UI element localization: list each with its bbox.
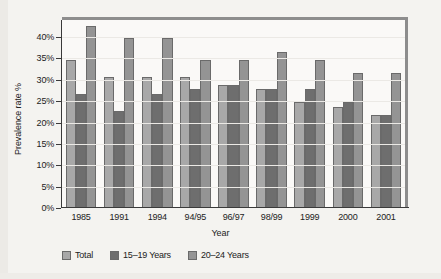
gridline — [62, 101, 405, 102]
bar[interactable] — [256, 89, 266, 208]
legend-item[interactable]: 20–24 Years — [188, 250, 249, 260]
x-axis-tick-label: 1991 — [110, 212, 129, 222]
bar[interactable] — [104, 77, 114, 208]
bar[interactable] — [343, 102, 353, 208]
bar[interactable] — [218, 85, 228, 208]
bar[interactable] — [86, 26, 96, 208]
y-axis-title: Prevalence rate % — [13, 49, 23, 189]
y-axis-line — [61, 20, 62, 208]
x-axis-tick-label: 2000 — [338, 212, 357, 222]
y-axis-tick-label: 0% — [41, 203, 54, 213]
bar[interactable] — [266, 89, 276, 208]
bar[interactable] — [228, 85, 238, 208]
bar[interactable] — [180, 77, 190, 208]
bar[interactable] — [277, 52, 287, 208]
gridline — [62, 165, 405, 166]
y-axis-tick-label: 10% — [37, 160, 54, 170]
x-axis-title: Year — [0, 228, 441, 238]
bar-group — [180, 20, 211, 208]
gridline — [62, 144, 405, 145]
legend-item[interactable]: 15–19 Years — [110, 250, 171, 260]
bar[interactable] — [76, 94, 86, 209]
legend-label: 15–19 Years — [123, 250, 171, 260]
gridline — [62, 187, 405, 188]
bar[interactable] — [142, 77, 152, 208]
bar-group — [66, 20, 97, 208]
legend-swatch-icon — [110, 251, 119, 260]
x-axis-tick-label: 2001 — [376, 212, 395, 222]
legend-swatch-icon — [188, 251, 197, 260]
bar-group — [371, 20, 402, 208]
x-axis-tick-label: 1999 — [300, 212, 319, 222]
gridline — [62, 123, 405, 124]
legend-label: 20–24 Years — [201, 250, 249, 260]
y-axis-tick-label: 40% — [37, 32, 54, 42]
x-axis-tick-label: 1985 — [71, 212, 90, 222]
bar[interactable] — [294, 102, 304, 208]
legend-swatch-icon — [62, 251, 71, 260]
bar[interactable] — [114, 111, 124, 208]
x-axis-tick-label: 96/97 — [223, 212, 245, 222]
bar[interactable] — [305, 89, 315, 208]
x-axis-tick-label: 98/99 — [261, 212, 283, 222]
plot-area — [62, 20, 405, 208]
bar-group — [142, 20, 173, 208]
y-axis-tick-label: 35% — [37, 53, 54, 63]
page-edge-bottom — [0, 273, 441, 279]
y-axis-tick-label: 30% — [37, 75, 54, 85]
gridline — [62, 58, 405, 59]
y-axis-tick-label: 15% — [37, 139, 54, 149]
y-axis-tick-label: 20% — [37, 118, 54, 128]
chart-legend: Total15–19 Years20–24 Years — [62, 250, 249, 260]
bar-group — [333, 20, 364, 208]
bar[interactable] — [371, 115, 381, 208]
x-axis-tick-label: 1994 — [148, 212, 167, 222]
y-axis-tick-mark — [56, 208, 61, 209]
bar[interactable] — [190, 89, 200, 208]
x-axis-tick-label: 94/95 — [185, 212, 207, 222]
legend-item[interactable]: Total — [62, 250, 93, 260]
bar[interactable] — [381, 115, 391, 208]
bar-group — [218, 20, 249, 208]
gridline — [62, 37, 405, 38]
chart-figure: 0%5%10%15%20%25%30%35%40% Prevalence rat… — [0, 0, 441, 279]
x-axis-line — [61, 207, 409, 208]
gridline — [62, 80, 405, 81]
bar-group — [104, 20, 135, 208]
y-axis-tick-label: 5% — [41, 182, 54, 192]
bar[interactable] — [391, 73, 401, 208]
bar-group — [256, 20, 287, 208]
y-axis-tick-label: 25% — [37, 96, 54, 106]
legend-label: Total — [75, 250, 93, 260]
bar[interactable] — [353, 73, 363, 208]
bar[interactable] — [152, 94, 162, 208]
bar-group — [294, 20, 325, 208]
